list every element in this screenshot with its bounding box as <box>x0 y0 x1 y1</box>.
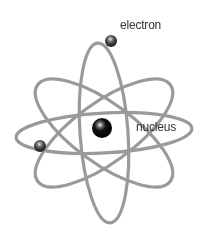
left-electron <box>34 140 46 152</box>
atom-diagram: electron nucleus <box>0 0 209 239</box>
top-electron <box>105 35 117 47</box>
atom-svg <box>0 0 209 239</box>
nucleus-sphere <box>92 118 112 138</box>
nucleus-label: nucleus <box>136 121 176 133</box>
electron-label: electron <box>120 19 161 31</box>
